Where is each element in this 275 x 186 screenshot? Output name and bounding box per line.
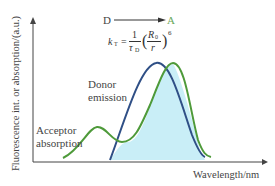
y-axis-arrow-icon (30, 17, 36, 24)
donor-emission-label-line2: emission (88, 91, 127, 103)
formula-eq: = (121, 36, 127, 47)
donor-label: D (103, 14, 111, 26)
formula-r: r (151, 42, 155, 53)
formula: k T = 1 τ D ( R 0 r ) 6 (108, 28, 188, 56)
formula-r0: R (148, 29, 154, 40)
y-axis-label: Fluorescence int. or absorption/(a.u.) (10, 9, 21, 179)
acceptor-absorption-label-line2: absorption (36, 137, 82, 149)
x-axis-label: Wavelength/nm (193, 169, 259, 180)
transfer-arrowhead-icon (158, 18, 166, 23)
acceptor-absorption-label-line1: Acceptor (36, 124, 76, 136)
formula-k: k (108, 36, 112, 47)
formula-sub-0: 0 (155, 34, 158, 40)
formula-one: 1 (132, 29, 137, 40)
acceptor-label: A (167, 14, 175, 26)
donor-emission-label-line1: Donor (88, 78, 116, 90)
formula-sub-d: D (135, 47, 139, 53)
formula-exp: 6 (168, 29, 172, 37)
formula-tau: τ (129, 42, 133, 53)
formula-sub-t: T (114, 41, 118, 47)
x-axis-arrow-icon (262, 159, 268, 165)
